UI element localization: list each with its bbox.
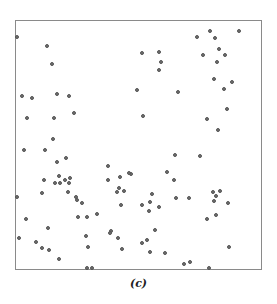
data-point — [217, 47, 221, 51]
data-point — [201, 53, 205, 57]
data-point — [237, 29, 241, 33]
data-point — [34, 240, 38, 244]
data-point — [120, 247, 124, 251]
data-point — [214, 213, 218, 217]
data-point — [55, 160, 59, 164]
data-point — [140, 203, 144, 207]
data-point — [22, 148, 26, 152]
data-point — [90, 266, 94, 270]
data-point — [212, 199, 216, 203]
data-point — [67, 94, 71, 98]
scatter-figure: (c) — [0, 0, 277, 304]
data-point — [46, 226, 50, 230]
data-point — [20, 94, 24, 98]
data-point — [116, 236, 120, 240]
data-point — [159, 60, 163, 64]
data-point — [40, 246, 44, 250]
data-point — [119, 203, 123, 207]
data-point — [205, 217, 209, 221]
data-point — [216, 128, 220, 132]
data-point — [140, 51, 144, 55]
data-point — [208, 29, 212, 33]
data-point — [172, 178, 176, 182]
data-point — [122, 189, 126, 193]
data-point — [213, 36, 217, 40]
figure-caption: (c) — [0, 277, 277, 290]
data-point — [157, 68, 161, 72]
data-point — [66, 190, 70, 194]
data-point — [57, 257, 61, 261]
data-point — [67, 181, 71, 185]
data-point — [58, 181, 62, 185]
data-point — [84, 234, 88, 238]
data-point — [47, 248, 51, 252]
data-point — [223, 53, 227, 57]
data-point — [106, 164, 110, 168]
data-point — [176, 90, 180, 94]
data-point — [15, 195, 19, 199]
data-point — [117, 186, 121, 190]
data-point — [148, 250, 152, 254]
data-point — [198, 154, 202, 158]
data-point — [51, 137, 55, 141]
data-point — [187, 196, 191, 200]
data-point — [218, 189, 222, 193]
data-point — [45, 44, 49, 48]
data-point — [118, 175, 122, 179]
data-point — [153, 228, 157, 232]
data-point — [50, 62, 54, 66]
data-point — [68, 176, 72, 180]
data-point — [215, 60, 219, 64]
data-point — [108, 231, 112, 235]
data-point — [148, 200, 152, 204]
data-point — [157, 50, 161, 54]
data-point — [141, 114, 145, 118]
data-point — [55, 92, 59, 96]
data-point — [72, 111, 76, 115]
data-point — [163, 251, 167, 255]
data-point — [25, 116, 29, 120]
data-point — [95, 212, 99, 216]
data-point — [106, 178, 110, 182]
data-point — [86, 245, 90, 249]
data-point — [230, 80, 234, 84]
data-point — [64, 156, 68, 160]
data-point — [157, 205, 161, 209]
data-point — [205, 117, 209, 121]
data-point — [43, 148, 47, 152]
data-point — [135, 88, 139, 92]
data-point — [195, 35, 199, 39]
data-point — [227, 245, 231, 249]
data-point — [207, 266, 211, 270]
plot-frame — [15, 20, 262, 270]
data-point — [165, 170, 169, 174]
data-point — [115, 190, 119, 194]
data-point — [24, 217, 28, 221]
data-point — [42, 178, 46, 182]
data-point — [30, 96, 34, 100]
data-point — [188, 260, 192, 264]
data-point — [85, 266, 89, 270]
data-point — [15, 35, 19, 39]
data-point — [212, 77, 216, 81]
data-point — [147, 209, 151, 213]
data-point — [85, 215, 89, 219]
data-point — [173, 153, 177, 157]
data-point — [127, 171, 131, 175]
data-point — [74, 195, 78, 199]
data-point — [214, 194, 218, 198]
data-point — [182, 262, 186, 266]
data-point — [80, 201, 84, 205]
data-point — [140, 241, 144, 245]
data-point — [150, 192, 154, 196]
data-point — [226, 201, 230, 205]
data-point — [53, 181, 57, 185]
data-point — [40, 191, 44, 195]
data-point — [225, 107, 229, 111]
data-point — [52, 116, 56, 120]
data-point — [17, 236, 21, 240]
data-point — [145, 238, 149, 242]
data-point — [222, 87, 226, 91]
data-point — [76, 215, 80, 219]
data-point — [174, 196, 178, 200]
